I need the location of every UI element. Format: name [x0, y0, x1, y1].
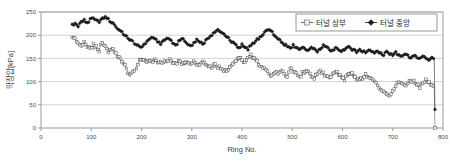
data-point	[179, 60, 182, 63]
data-point	[363, 76, 366, 79]
data-point	[299, 75, 302, 78]
x-tick-label: 600	[337, 134, 348, 140]
data-point	[235, 60, 238, 63]
x-tick-label: 800	[438, 134, 449, 140]
data-point	[417, 83, 420, 86]
data-point	[152, 61, 155, 64]
data-point	[290, 67, 293, 70]
data-point	[250, 53, 253, 56]
data-point	[413, 79, 416, 82]
data-point	[364, 73, 367, 76]
data-point	[104, 45, 107, 48]
x-tick-label: 700	[388, 134, 399, 140]
data-point	[90, 46, 93, 49]
data-point	[137, 63, 140, 66]
data-point	[218, 65, 221, 68]
x-tick-label: 400	[237, 134, 248, 140]
data-point	[74, 37, 77, 40]
x-tick-label: 500	[287, 134, 298, 140]
data-point	[135, 67, 138, 70]
data-point	[214, 63, 217, 66]
data-point	[241, 59, 244, 62]
data-point	[394, 85, 397, 88]
y-tick-label: 100	[26, 79, 37, 85]
data-point	[322, 71, 325, 74]
data-point	[287, 71, 290, 74]
data-point	[319, 69, 322, 72]
chart-legend: 터널 상부 터널 중앙	[296, 14, 437, 31]
data-point	[119, 57, 122, 60]
y-tick-label: 0	[33, 125, 37, 131]
y-axis-title: 막장압[kPa]	[5, 51, 15, 89]
data-point	[354, 76, 357, 79]
data-point	[281, 70, 284, 73]
data-point	[351, 72, 354, 75]
data-point	[433, 108, 436, 111]
data-point	[342, 77, 345, 80]
data-point	[83, 40, 86, 43]
data-point	[428, 81, 431, 84]
data-point	[343, 79, 346, 82]
data-point	[286, 76, 289, 79]
x-tick-label: 100	[86, 134, 97, 140]
y-axis-ticks: 050100150200250	[26, 9, 41, 131]
data-point	[125, 67, 128, 70]
data-point	[419, 87, 422, 90]
y-tick-label: 150	[26, 56, 37, 62]
data-point	[256, 60, 259, 63]
data-point	[266, 70, 269, 73]
data-point	[101, 42, 104, 45]
data-point	[423, 81, 426, 84]
data-point	[425, 78, 428, 81]
face-pressure-line-chart: 050100150200250 010020030040050060070080…	[0, 0, 454, 162]
data-point	[376, 84, 379, 87]
data-point	[407, 82, 410, 85]
data-point	[176, 63, 179, 66]
chart-container: 050100150200250 010020030040050060070080…	[0, 0, 454, 162]
data-point	[330, 76, 333, 79]
data-point	[211, 67, 214, 70]
data-point	[95, 45, 98, 48]
y-tick-label: 250	[26, 9, 37, 15]
data-point	[124, 63, 127, 66]
data-point	[84, 43, 87, 46]
data-point	[227, 69, 230, 72]
data-point	[244, 61, 247, 64]
data-point	[198, 64, 201, 67]
x-tick-label: 300	[187, 134, 198, 140]
data-point	[309, 72, 312, 75]
data-point	[248, 55, 251, 58]
data-point	[393, 88, 396, 91]
legend-label-1: 터널 중앙	[380, 18, 410, 28]
open-square-icon	[305, 20, 310, 25]
data-point	[295, 72, 298, 75]
x-tick-label: 0	[39, 134, 43, 140]
data-point	[98, 50, 101, 53]
data-point	[106, 47, 109, 50]
data-point	[107, 51, 110, 54]
data-point	[81, 44, 84, 47]
data-series-group	[70, 15, 436, 129]
data-point	[390, 93, 393, 96]
series-line	[72, 37, 435, 128]
x-axis-ticks: 0100200300400500600700800	[39, 128, 448, 140]
data-point	[92, 42, 95, 45]
series-0	[71, 36, 436, 129]
data-point	[115, 52, 118, 55]
data-point	[375, 81, 378, 84]
data-point	[434, 127, 437, 130]
legend-label-0: 터널 상부	[316, 18, 346, 28]
x-tick-label: 200	[136, 134, 147, 140]
y-tick-label: 200	[26, 32, 37, 38]
y-tick-label: 50	[29, 102, 36, 108]
data-point	[336, 70, 339, 73]
data-point	[112, 47, 115, 50]
data-point	[313, 78, 316, 81]
x-axis-title: Ring No.	[227, 145, 256, 154]
